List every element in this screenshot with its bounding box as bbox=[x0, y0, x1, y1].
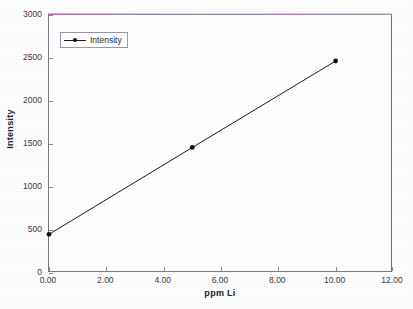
x-axis-tick-label: 10.00 bbox=[313, 275, 357, 285]
data-series-layer bbox=[49, 15, 393, 273]
y-axis-tick-label: 2500 bbox=[2, 52, 42, 62]
y-axis-tick-label: 1500 bbox=[2, 138, 42, 148]
series-markers-intensity bbox=[47, 59, 338, 237]
plot-area bbox=[48, 14, 392, 272]
y-axis-tick bbox=[49, 273, 53, 274]
data-point bbox=[190, 145, 195, 150]
data-point bbox=[47, 232, 52, 237]
x-axis-tick-label: 0.00 bbox=[26, 275, 70, 285]
y-axis-tick-label: 2000 bbox=[2, 95, 42, 105]
y-axis-tick-label: 3000 bbox=[2, 9, 42, 19]
y-axis-tick-label: 500 bbox=[2, 224, 42, 234]
y-axis-tick-label: 1000 bbox=[2, 181, 42, 191]
plot-inner bbox=[49, 15, 391, 271]
x-axis-tick-label: 8.00 bbox=[255, 275, 299, 285]
x-axis-tick-label: 2.00 bbox=[83, 275, 127, 285]
x-axis-tick-label: 6.00 bbox=[198, 275, 242, 285]
x-axis-title-label: ppm Li bbox=[204, 288, 235, 298]
legend-entry-label: Intensity bbox=[90, 35, 122, 45]
legend-point-icon bbox=[73, 38, 77, 42]
y-axis-title: Intensity bbox=[3, 0, 17, 258]
legend-marker-icon bbox=[64, 36, 86, 44]
chart-container: Intensity 050010001500200025003000 0.002… bbox=[0, 0, 413, 309]
x-axis-tick-label: 4.00 bbox=[141, 275, 185, 285]
x-axis-tick-label: 12.00 bbox=[370, 275, 413, 285]
x-axis-title: ppm Li bbox=[48, 288, 392, 298]
data-point bbox=[333, 59, 338, 64]
chart-legend: Intensity bbox=[60, 32, 128, 48]
